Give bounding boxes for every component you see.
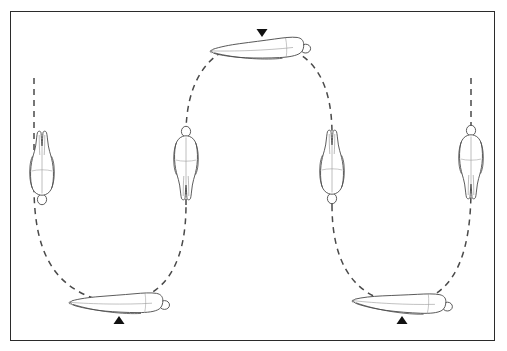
caption-fragment [12, 345, 495, 350]
figure-frame-border [10, 11, 495, 341]
diagram-canvas [0, 0, 507, 351]
